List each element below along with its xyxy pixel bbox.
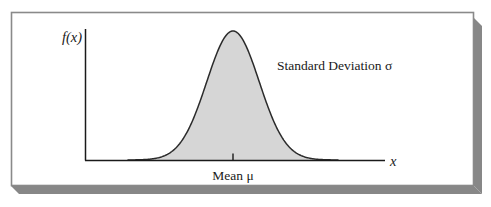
x-axis-label: x: [389, 153, 397, 169]
normal-distribution-figure: f(x) x Mean μ Standard Deviation σ: [0, 0, 491, 207]
mean-label: Mean μ: [212, 168, 253, 183]
standard-deviation-label: Standard Deviation σ: [277, 58, 393, 73]
y-axis-label: f(x): [62, 29, 82, 46]
figure-container: f(x) x Mean μ Standard Deviation σ: [0, 0, 491, 207]
